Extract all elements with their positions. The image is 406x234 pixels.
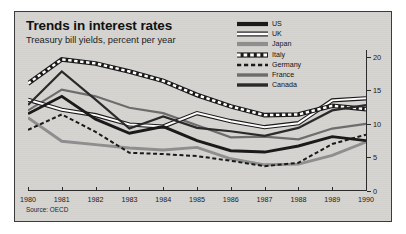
x-axis-line xyxy=(28,190,366,191)
x-tick-label: 1990 xyxy=(358,195,374,204)
legend-item-label: Japan xyxy=(272,40,291,48)
legend-swatch-icon xyxy=(237,30,268,38)
y-tick-label: 5 xyxy=(373,153,377,162)
y-tick-mark xyxy=(367,157,371,158)
legend-item-label: US xyxy=(272,20,282,28)
y-tick-label: 15 xyxy=(373,86,381,95)
y-tick-mark xyxy=(367,90,371,91)
y-tick-mark xyxy=(367,57,371,58)
chart-subtitle: Treasury bill yields, percent per year xyxy=(26,35,176,45)
y-tick-mark xyxy=(367,124,371,125)
legend-swatch-icon xyxy=(237,40,268,48)
x-tick-mark xyxy=(197,187,198,190)
chart-figure: Trends in interest rates Treasury bill y… xyxy=(14,11,392,222)
x-tick-mark xyxy=(332,187,333,190)
x-tick-label: 1987 xyxy=(257,195,273,204)
x-tick-label: 1982 xyxy=(88,195,104,204)
x-tick-label: 1981 xyxy=(54,195,70,204)
chart-title: Trends in interest rates xyxy=(26,18,172,33)
x-tick-mark xyxy=(96,187,97,190)
legend-item-label: France xyxy=(272,71,294,79)
legend-item-label: Italy xyxy=(272,51,285,59)
x-tick-label: 1986 xyxy=(223,195,239,204)
legend-item-japan[interactable]: Japan xyxy=(237,40,301,49)
legend-swatch-icon xyxy=(237,61,268,69)
legend-swatch-icon xyxy=(237,51,268,59)
plot-area xyxy=(28,50,366,191)
legend-item-uk[interactable]: UK xyxy=(237,30,301,39)
legend-item-label: Canada xyxy=(272,81,297,89)
source-note: Source: OECD xyxy=(26,206,68,213)
x-tick-label: 1983 xyxy=(121,195,137,204)
legend-swatch-icon xyxy=(237,20,268,28)
legend-item-label: Germany xyxy=(272,61,301,69)
chart-legend: USUKJapanItalyGermanyFranceCanada xyxy=(237,20,301,89)
x-tick-label: 1989 xyxy=(324,195,340,204)
y-tick-label: 10 xyxy=(373,119,381,128)
x-tick-mark xyxy=(231,187,232,190)
legend-item-france[interactable]: France xyxy=(237,70,301,79)
series-canvas xyxy=(28,50,366,191)
x-tick-label: 1980 xyxy=(20,195,36,204)
y-tick-label: 20 xyxy=(373,52,381,61)
x-tick-mark xyxy=(298,187,299,190)
x-tick-mark xyxy=(163,187,164,190)
legend-item-us[interactable]: US xyxy=(237,20,301,29)
legend-item-italy[interactable]: Italy xyxy=(237,50,301,59)
x-tick-mark xyxy=(265,187,266,190)
legend-swatch-icon xyxy=(237,71,268,79)
x-tick-mark xyxy=(28,187,29,190)
x-tick-label: 1988 xyxy=(290,195,306,204)
x-tick-mark xyxy=(129,187,130,190)
y-axis-line xyxy=(366,50,367,191)
x-tick-mark xyxy=(62,187,63,190)
x-tick-label: 1984 xyxy=(155,195,171,204)
y-tick-label: 0 xyxy=(373,187,377,196)
legend-item-label: UK xyxy=(272,30,282,38)
x-tick-label: 1985 xyxy=(189,195,205,204)
legend-item-germany[interactable]: Germany xyxy=(237,60,301,69)
y-tick-mark xyxy=(367,191,371,192)
x-tick-mark xyxy=(366,187,367,190)
legend-item-canada[interactable]: Canada xyxy=(237,81,301,90)
legend-swatch-icon xyxy=(237,81,268,89)
